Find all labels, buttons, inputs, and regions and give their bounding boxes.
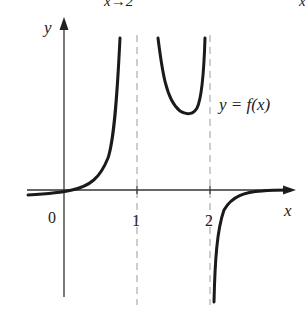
y-axis-arrow-icon [60, 17, 69, 30]
top-cut-text-left: x→2 [103, 0, 134, 9]
tick-label-1: 1 [132, 212, 140, 229]
curve-branch-right [214, 190, 290, 302]
curve-branch-middle [158, 38, 205, 114]
function-graph: x→2 x y x 0 1 2 y = f(x) [0, 0, 307, 318]
x-axis-label: x [283, 201, 292, 220]
top-cut-text-right: x [298, 0, 306, 9]
y-axis-label: y [42, 18, 52, 37]
tick-label-0: 0 [48, 209, 56, 226]
curve-branch-left [28, 38, 120, 195]
curve-label: y = f(x) [217, 95, 270, 114]
tick-label-2: 2 [205, 212, 213, 229]
